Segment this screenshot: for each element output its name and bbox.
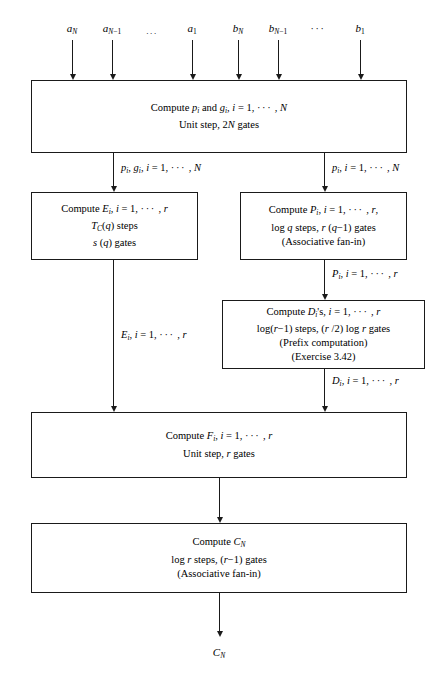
input-arrow-line-a-1	[192, 40, 193, 74]
edge-line-f-to-c	[219, 478, 220, 517]
input-arrow-line-a-N	[72, 40, 73, 74]
input-arrow-line-b-N-1	[278, 40, 279, 74]
input-label-a-N-1: aN−1	[103, 22, 122, 38]
box-compute-d-line-2: log(r−1) steps, (r /2) log r gates	[257, 322, 390, 336]
box-compute-p-line-2: log q steps, r (q−1) gates	[271, 221, 376, 235]
input-arrow-line-b-1	[360, 40, 361, 74]
box-compute-e-line-1: Compute Ei, i = 1, ··· , r	[61, 202, 168, 219]
input-label-a-N: aN	[67, 22, 78, 38]
box-compute-d-line-1: Compute Di's, i = 1, ··· , r	[267, 305, 381, 322]
input-label-b-ellipsis: ···	[311, 23, 326, 35]
box-compute-d-line-4: (Exercise 3.42)	[291, 350, 355, 364]
input-label-b-N: bN	[233, 22, 244, 38]
box-compute-f-line-1: Compute Fi, i = 1, ··· , r	[166, 429, 273, 446]
edge-label-e: Ei, i = 1, ··· , r	[121, 329, 187, 344]
input-label-a-ellipsis: ...	[146, 25, 158, 37]
edge-line-p-g	[113, 153, 114, 186]
edge-line-p	[324, 153, 325, 186]
edge-label-p-g: pi, gi, i = 1, ··· , N	[121, 162, 201, 177]
diagram-canvas: aN aN−1 ... a1 bN bN−1 ··· b1 Compute pi…	[0, 0, 441, 681]
box-compute-f: Compute Fi, i = 1, ··· , r Unit step, r …	[31, 412, 407, 478]
input-arrow-line-a-N-1	[112, 40, 113, 74]
box-compute-c-line-2: log r steps, (r−1) gates	[171, 553, 266, 567]
box-compute-e-line-3: s (q) gates	[93, 236, 136, 250]
box-compute-c: Compute CN log r steps, (r−1) gates (Ass…	[31, 523, 407, 593]
input-label-b-1: b1	[355, 22, 364, 38]
input-arrow-line-b-N	[238, 40, 239, 74]
output-arrow-head	[217, 631, 223, 637]
box-compute-d-line-3: (Prefix computation)	[280, 336, 368, 350]
edge-label-pbig: Pi, i = 1, ··· , r	[332, 268, 398, 283]
box-compute-p-g-line-2: Unit step, 2N gates	[179, 118, 259, 132]
box-compute-c-line-3: (Associative fan-in)	[177, 567, 261, 581]
box-compute-d: Compute Di's, i = 1, ··· , r log(r−1) st…	[222, 300, 425, 369]
edge-label-d: Di, i = 1, ··· , r	[332, 375, 399, 390]
box-compute-e-line-2: TC(q) steps	[91, 219, 138, 236]
box-compute-f-line-2: Unit step, r gates	[183, 447, 255, 461]
edge-line-pbig	[324, 260, 325, 294]
box-compute-p-line-3: (Associative fan-in)	[282, 235, 366, 249]
edge-line-d	[324, 369, 325, 406]
output-arrow-line	[219, 593, 220, 631]
output-label-cn: CN	[213, 646, 225, 662]
input-label-b-N-1: bN−1	[269, 22, 288, 38]
input-label-a-1: a1	[187, 22, 196, 38]
box-compute-p-g-line-1: Compute pi and gi, i = 1, ··· , N	[151, 101, 287, 118]
box-compute-p-g: Compute pi and gi, i = 1, ··· , N Unit s…	[31, 80, 407, 153]
box-compute-p-line-1: Compute Pi, i = 1, ··· , r,	[269, 203, 378, 220]
box-compute-c-line-1: Compute CN	[192, 535, 245, 552]
box-compute-p: Compute Pi, i = 1, ··· , r, log q steps,…	[240, 192, 407, 260]
edge-line-e	[113, 260, 114, 406]
edge-label-p: pi, i = 1, ··· , N	[332, 162, 399, 177]
box-compute-e: Compute Ei, i = 1, ··· , r TC(q) steps s…	[31, 192, 198, 260]
